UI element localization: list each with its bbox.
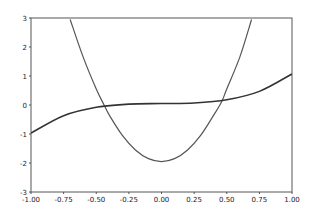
x-tick-label: 1.00	[284, 196, 300, 204]
x-tick-label: 0.50	[219, 196, 235, 204]
x-tick-label: -1.00	[22, 196, 40, 204]
series-layer	[31, 19, 292, 161]
y-axis: -3-2-10123	[20, 15, 31, 197]
y-tick-label: -2	[20, 160, 27, 168]
series-parabola-line	[70, 19, 251, 161]
x-tick-label: -0.75	[55, 196, 73, 204]
x-tick-label: 0.25	[186, 196, 202, 204]
x-tick-label: -0.50	[87, 196, 105, 204]
plot-area-border	[31, 18, 292, 192]
x-tick-label: 0.75	[252, 196, 268, 204]
y-tick-label: 1	[23, 73, 27, 81]
y-tick-label: 3	[23, 15, 27, 23]
chart: -3-2-10123 -1.00-0.75-0.50-0.250.000.250…	[0, 0, 315, 216]
x-axis: -1.00-0.75-0.50-0.250.000.250.500.751.00	[22, 192, 300, 204]
series-cubic-line	[31, 74, 292, 133]
y-tick-label: 0	[23, 102, 27, 110]
y-tick-label: 2	[23, 44, 27, 52]
plot-frame	[31, 18, 292, 192]
x-tick-label: 0.00	[154, 196, 170, 204]
y-tick-label: -1	[20, 131, 27, 139]
x-tick-label: -0.25	[120, 196, 138, 204]
